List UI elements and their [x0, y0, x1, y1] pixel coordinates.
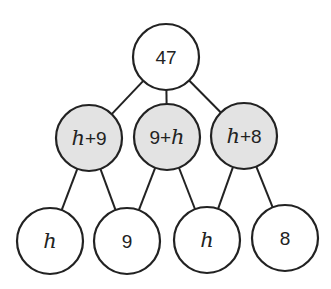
edge-m2-b2: [139, 168, 155, 210]
edge-m1-b1: [62, 169, 78, 210]
edge-m1-b2: [100, 169, 115, 210]
node-m2: 9+h: [134, 104, 200, 170]
edge-m3-b4: [256, 167, 272, 208]
node-label: 9: [122, 231, 133, 252]
number-tree-diagram: 47h+99+hh+8h9h8: [0, 0, 331, 289]
node-b3: h: [174, 207, 240, 273]
nodes: 47h+99+hh+8h9h8: [17, 24, 318, 274]
node-label: 9+h: [149, 125, 184, 149]
node-label: h+9: [71, 126, 106, 150]
node-b4: 8: [252, 205, 318, 271]
edge-m2-b3: [179, 168, 195, 209]
node-label: h+8: [226, 124, 261, 148]
edge-root-m1: [112, 81, 144, 114]
node-label: h: [200, 228, 214, 252]
node-label: 8: [280, 228, 291, 249]
node-b1: h: [17, 208, 83, 274]
node-root: 47: [133, 24, 199, 90]
node-m3: h+8: [211, 103, 277, 169]
node-m1: h+9: [56, 105, 122, 171]
edge-m3-b3: [218, 167, 233, 209]
edge-root-m3: [189, 80, 221, 112]
node-b2: 9: [94, 208, 160, 274]
node-label: 47: [155, 47, 176, 68]
node-label: h: [43, 229, 57, 253]
